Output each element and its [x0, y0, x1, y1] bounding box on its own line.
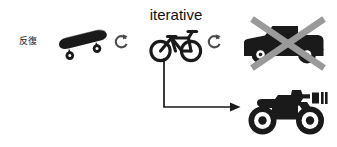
iterative-caption: iterative: [133, 6, 219, 23]
refresh-cycle-icon: [113, 33, 129, 51]
stage-skateboard: [52, 26, 112, 62]
refresh-cycle-icon: [206, 33, 222, 51]
connector-elbow-arrow: [160, 58, 246, 114]
connector-cycle-2: [206, 33, 222, 51]
motorcycle-icon: [244, 86, 332, 138]
side-label-repetition: 反復: [8, 36, 48, 47]
stage-motorcycle: [244, 86, 332, 138]
skateboard-icon: [52, 26, 112, 62]
stage-car-rejected: [238, 16, 330, 74]
diagram-canvas: 反復 iterative: [0, 0, 337, 147]
connector-cycle-1: [113, 33, 129, 51]
elbow-arrow-icon: [160, 58, 246, 114]
